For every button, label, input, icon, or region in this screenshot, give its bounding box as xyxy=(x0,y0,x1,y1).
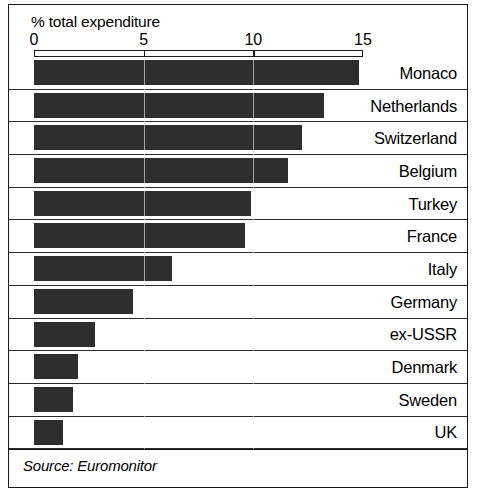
source-divider xyxy=(9,449,467,450)
bar xyxy=(34,93,324,118)
chart-row: Turkey xyxy=(9,188,467,221)
bar xyxy=(34,420,63,445)
chart-row: UK xyxy=(9,417,467,450)
chart-figure: % total expenditure 051015 MonacoNetherl… xyxy=(8,4,468,488)
x-tick-mark xyxy=(253,50,254,57)
category-label: Turkey xyxy=(408,194,457,213)
bar xyxy=(34,289,133,314)
bar xyxy=(34,322,95,347)
chart-row: Monaco xyxy=(9,57,467,90)
bar xyxy=(34,158,288,183)
axis-title: % total expenditure xyxy=(31,13,160,31)
category-label: Switzerland xyxy=(374,129,457,148)
bar xyxy=(34,387,73,412)
bar xyxy=(34,60,359,85)
bar xyxy=(34,354,78,379)
chart-row: Denmark xyxy=(9,351,467,384)
category-label: Belgium xyxy=(399,161,457,180)
chart-row: Germany xyxy=(9,286,467,319)
bar xyxy=(34,256,172,281)
category-label: Italy xyxy=(428,259,457,278)
chart-row: Netherlands xyxy=(9,90,467,123)
x-tick-mark xyxy=(144,50,145,57)
category-label: France xyxy=(407,227,457,246)
x-tick-label: 0 xyxy=(30,31,39,49)
category-label: Netherlands xyxy=(370,96,457,115)
x-axis-tick-labels: 051015 xyxy=(9,31,467,51)
category-label: ex-USSR xyxy=(390,325,457,344)
bar xyxy=(34,125,302,150)
x-axis-bar xyxy=(34,50,363,57)
category-label: Sweden xyxy=(399,390,457,409)
x-tick-label: 5 xyxy=(139,31,148,49)
bar xyxy=(34,191,251,216)
chart-row: Italy xyxy=(9,253,467,286)
chart-row: ex-USSR xyxy=(9,319,467,352)
category-label: UK xyxy=(434,423,457,442)
category-label: Germany xyxy=(391,292,457,311)
x-tick-label: 10 xyxy=(244,31,262,49)
chart-row: Belgium xyxy=(9,155,467,188)
bar xyxy=(34,223,245,248)
plot-area: MonacoNetherlandsSwitzerlandBelgiumTurke… xyxy=(9,57,467,449)
chart-row: Sweden xyxy=(9,384,467,417)
category-label: Monaco xyxy=(399,63,457,82)
chart-row: France xyxy=(9,220,467,253)
category-label: Denmark xyxy=(391,358,457,377)
chart-row: Switzerland xyxy=(9,122,467,155)
source-label: Source: Euromonitor xyxy=(23,457,157,474)
x-tick-label: 15 xyxy=(354,31,372,49)
